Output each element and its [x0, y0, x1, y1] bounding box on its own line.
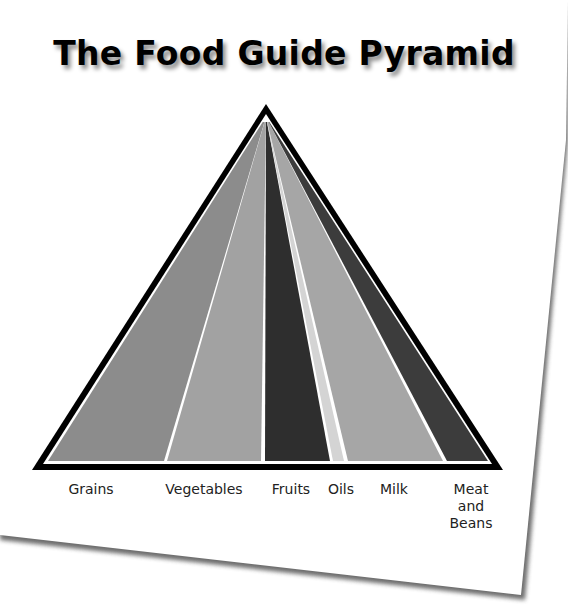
label-meat-and-beans: Meat and Beans [421, 481, 521, 532]
page-title: The Food Guide Pyramid [0, 34, 568, 73]
label-grains: Grains [41, 481, 141, 498]
label-vegetables: Vegetables [154, 481, 254, 498]
food-guide-pyramid-page: The Food Guide Pyramid GrainsVegetablesF… [0, 0, 568, 615]
